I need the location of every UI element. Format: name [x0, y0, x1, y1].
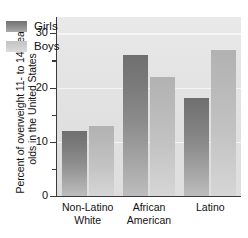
- x-category-label-line: American: [118, 214, 179, 227]
- legend-swatch-boys-icon: [6, 41, 27, 52]
- x-axis-line: [56, 196, 241, 197]
- legend-swatch-girls-icon: [6, 21, 27, 32]
- bar-girls-2: [184, 98, 209, 196]
- y-tick-label: 20: [8, 81, 48, 93]
- x-category-label-line: African: [118, 201, 179, 214]
- bar-girls-0: [62, 131, 87, 196]
- y-tick-label: 0: [8, 189, 48, 201]
- x-category-label-2: Latino: [180, 201, 241, 214]
- bar-boys-0: [89, 126, 114, 197]
- x-category-label-1: AfricanAmerican: [118, 201, 179, 226]
- y-axis-label-line-2: olds in the United States: [26, 53, 39, 164]
- x-category-label-0: Non-LatinoWhite: [57, 201, 118, 226]
- x-category-label-line: White: [57, 214, 118, 227]
- legend-item-girls: Girls: [6, 20, 96, 32]
- bar-girls-1: [123, 55, 148, 196]
- legend-item-boys: Boys: [6, 40, 96, 52]
- legend-label-girls: Girls: [34, 20, 58, 32]
- y-tick-label: 10: [8, 135, 48, 147]
- bar-boys-2: [211, 50, 236, 196]
- x-category-label-line: Non-Latino: [57, 201, 118, 214]
- bar-boys-1: [150, 77, 175, 196]
- x-category-label-line: Latino: [180, 201, 241, 214]
- legend-label-boys: Boys: [34, 40, 60, 52]
- chart-legend: Girls Boys: [6, 20, 96, 60]
- chart-figure: Percent of overweight 11- to 14-year- ol…: [0, 0, 248, 238]
